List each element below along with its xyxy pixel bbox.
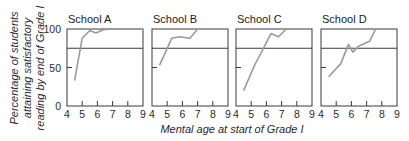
x-tick-label: 8 [125,108,131,120]
x-tick-label: 4 [318,108,324,120]
x-tick-label: 7 [110,108,116,120]
y-tick-label: 0 [55,100,61,112]
panel-frame [152,29,228,106]
x-tick-label: 9 [309,108,315,120]
panel-frame [236,29,312,106]
panel-school-a: School A456789 [64,13,146,120]
panel-frame [321,29,397,106]
chart-figure: Percentage of studentsattaining satisfac… [0,0,409,141]
x-tick-label: 7 [195,108,201,120]
panel-title: School D [322,13,367,25]
x-tick-label: 6 [348,108,354,120]
data-line [329,29,376,77]
x-tick-label: 4 [233,108,239,120]
x-tick-label: 9 [140,108,146,120]
data-line [75,29,143,81]
x-tick-label: 9 [394,108,400,120]
chart-panels: 050100School A456789School B456789School… [43,13,400,120]
x-tick-label: 5 [333,108,339,120]
x-tick-label: 4 [149,108,155,120]
y-axis-label-line: Percentage of students [8,11,20,125]
data-line [160,29,209,65]
x-tick-label: 6 [179,108,185,120]
x-tick-label: 6 [94,108,100,120]
x-tick-label: 6 [263,108,269,120]
x-tick-label: 5 [248,108,254,120]
x-tick-label: 5 [164,108,170,120]
y-axis-label-line: attaining satisfactory [21,16,33,118]
x-tick-label: 7 [364,108,370,120]
x-tick-label: 4 [64,108,70,120]
x-tick-label: 8 [294,108,300,120]
x-tick-label: 8 [210,108,216,120]
panel-school-c: School C456789 [233,13,315,120]
x-tick-label: 7 [279,108,285,120]
panel-frame [67,29,143,106]
y-tick-label: 50 [49,62,61,74]
panel-title: School A [68,13,112,25]
x-axis-label: Mental age at start of Grade I [160,123,303,135]
data-line [244,29,294,91]
y-tick-label: 100 [43,23,61,35]
panel-school-b: School B456789 [149,13,231,120]
x-tick-label: 9 [225,108,231,120]
y-axis-label: Percentage of studentsattaining satisfac… [8,6,46,131]
x-tick-label: 8 [379,108,385,120]
panel-title: School B [153,13,197,25]
x-tick-label: 5 [79,108,85,120]
panel-school-d: School D456789 [318,13,400,120]
panel-title: School C [237,13,282,25]
